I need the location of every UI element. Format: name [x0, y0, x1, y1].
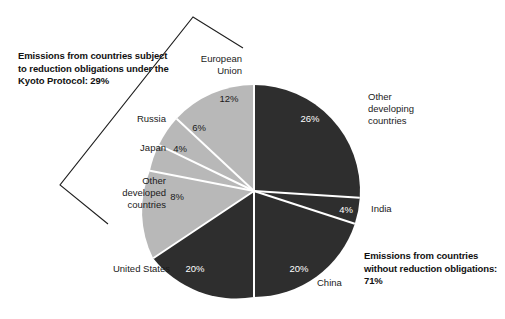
value-russia: 6%: [192, 122, 206, 133]
value-other-developing: 26%: [300, 113, 320, 124]
pie-chart-figure: 26% 4% 20% 20% 8% 4% 6% 12% European Uni…: [0, 0, 505, 319]
pie-label-russia: Russia: [112, 113, 166, 125]
pie-label-other-developing: Other developing countries: [368, 91, 452, 127]
value-china: 20%: [289, 263, 309, 274]
pie-label-other-developed: Other developed countries: [96, 175, 166, 211]
value-japan: 4%: [173, 143, 187, 154]
pie-label-india: India: [371, 203, 411, 215]
pie-slice-other-developing: [254, 85, 360, 198]
annotation-no-obligation-group: Emissions from countries without reducti…: [364, 250, 505, 288]
pie-label-japan: Japan: [112, 142, 166, 154]
value-european-union: 12%: [219, 93, 239, 104]
pie-label-united-states: United States: [88, 263, 170, 275]
annotation-kyoto-group: Emissions from countries subject to redu…: [18, 50, 170, 88]
pie-label-european-union: European Union: [170, 53, 242, 77]
value-other-developed: 8%: [170, 191, 184, 202]
value-united-states: 20%: [185, 263, 205, 274]
value-india: 4%: [339, 204, 353, 215]
